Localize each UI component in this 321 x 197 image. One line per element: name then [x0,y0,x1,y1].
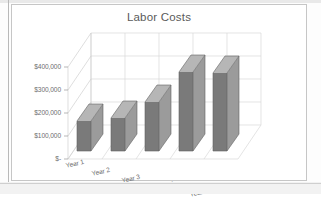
page-left-edge [8,0,9,194]
y-axis-label-200000: $200,000 [9,109,61,116]
y-axis-label-300000: $300,000 [9,86,61,93]
page-bottom-edge [0,183,321,184]
bar-year-4 [179,55,205,151]
axis-tick-marks [64,67,68,159]
bar-year-2 [111,101,137,151]
scanned-page: Labor Costs [0,0,321,194]
y-axis-label-zero: $- [9,155,61,162]
y-axis-label-400000: $400,000 [9,63,61,70]
bar-year-3 [145,85,171,151]
y-axis-label-100000: $100,000 [9,132,61,139]
bar-year-1 [77,104,103,151]
bar-year-5 [213,56,239,151]
page-top-edge [0,0,321,3]
chart-plot-area: Labor Costs [11,4,307,181]
